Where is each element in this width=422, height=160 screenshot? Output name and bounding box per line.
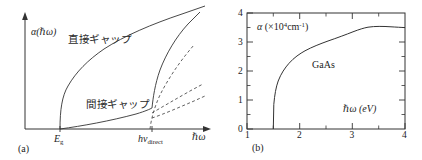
panel-a-plot bbox=[0, 0, 215, 160]
panel-a-tag: (a) bbox=[18, 144, 29, 154]
dashed-component-2 bbox=[152, 84, 203, 113]
panel-b-ytick-0: 0 bbox=[238, 125, 243, 135]
panel-b-xtick-3: 3 bbox=[350, 131, 355, 141]
panel-b-y-axis-label: α (×104cm-1) bbox=[257, 22, 308, 32]
panel-b-x-minor-ticks bbox=[273, 126, 378, 130]
panel-a: α(ℏω) 直接ギャップ 間接ギャップ Eg hνdirect ℏω (a) bbox=[0, 0, 215, 160]
indirect-gap-label: 間接ギャップ bbox=[86, 99, 150, 110]
xtick-label-eg: Eg bbox=[54, 134, 64, 145]
xtick-hv-sub: direct bbox=[147, 138, 162, 145]
panel-b-xtick-1: 1 bbox=[245, 131, 250, 141]
panel-b-x-top-ticks bbox=[273, 13, 378, 19]
panel-b-units-post: ) bbox=[305, 21, 308, 32]
panel-b-xtick-4: 4 bbox=[402, 131, 407, 141]
panel-b-units-pre: (×10 bbox=[262, 21, 283, 32]
dashed-component-1 bbox=[150, 45, 194, 129]
panel-b-ytick-4: 4 bbox=[238, 9, 243, 19]
panel-a-x-axis bbox=[25, 126, 211, 132]
panel-b-tag: (b) bbox=[252, 143, 264, 153]
panel-a-x-axis-label: ℏω bbox=[192, 132, 206, 142]
figure-root: α(ℏω) 直接ギャップ 間接ギャップ Eg hνdirect ℏω (a) bbox=[0, 0, 422, 160]
panel-b-x-axis-label: ℏω (eV) bbox=[343, 104, 376, 114]
panel-b-ytick-3: 3 bbox=[238, 38, 243, 48]
gaas-absorption-curve bbox=[273, 26, 405, 129]
xtick-eg-sub: g bbox=[60, 138, 63, 145]
direct-gap-curve bbox=[60, 6, 205, 129]
panel-b-xtick-2: 2 bbox=[297, 131, 302, 141]
indirect-gap-steep-rise bbox=[152, 12, 200, 108]
xtick-label-hv-direct: hνdirect bbox=[138, 134, 163, 145]
panel-b-y-right-ticks bbox=[399, 28, 405, 115]
panel-b-y-major-ticks bbox=[247, 13, 253, 129]
panel-b-ytick-2: 2 bbox=[238, 67, 243, 77]
panel-b-units-mid: cm bbox=[287, 21, 299, 32]
panel-b: α (×104cm-1) GaAs ℏω (eV) 1 2 3 4 0 1 2 … bbox=[215, 0, 422, 160]
direct-gap-label: 直接ギャップ bbox=[68, 34, 132, 45]
panel-a-y-axis-label: α(ℏω) bbox=[31, 27, 56, 37]
indirect-gap-curve bbox=[60, 108, 152, 129]
gaas-material-label: GaAs bbox=[312, 60, 335, 70]
dashed-component-3 bbox=[152, 96, 205, 118]
panel-b-ytick-1: 1 bbox=[238, 96, 243, 106]
panel-a-y-axis bbox=[22, 12, 28, 129]
